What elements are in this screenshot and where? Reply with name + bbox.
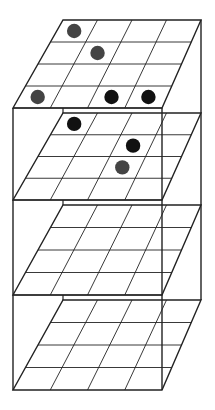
gray-dot (90, 46, 104, 60)
stacked-grid-diagram (0, 0, 215, 410)
black-dot (126, 138, 140, 152)
gray-dot (115, 160, 129, 174)
black-dot (67, 117, 81, 131)
gray-dot (67, 24, 81, 38)
black-dot (104, 90, 118, 104)
diagram-canvas (0, 0, 215, 410)
gray-dot (31, 90, 45, 104)
black-dot (141, 90, 155, 104)
